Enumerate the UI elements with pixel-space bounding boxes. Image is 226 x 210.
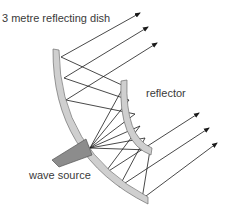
wave-source-label: wave source — [29, 170, 91, 181]
reflector-label: reflector — [146, 88, 186, 99]
wave-source — [52, 139, 92, 167]
dish-label: 3 metre reflecting dish — [2, 13, 110, 24]
